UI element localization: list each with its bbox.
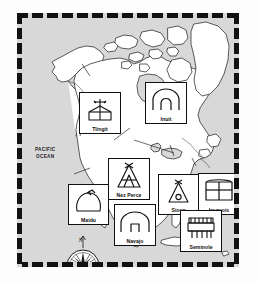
tribe-box-iroquois[interactable]: Iroquois [198,173,234,215]
chickee-icon [181,211,221,244]
compass-north-letter: N [78,237,84,243]
tribe-label-nez-perce: Nez Perce [117,192,142,198]
pacific-ocean-label: PACIFIC OCEAN [35,146,55,160]
tribe-box-tlingit[interactable]: Tlingit [79,92,121,134]
earth-lodge-icon [69,185,108,217]
tribe-box-inuit[interactable]: Inuit [145,82,187,124]
tribe-label-navajo: Navajo [126,238,143,244]
compass-rose: N [58,234,108,262]
tribe-box-maidu[interactable]: Maidu [68,184,109,225]
frame-edge-right [234,13,239,267]
tipi-poles-icon [109,159,149,192]
tribe-label-tlingit: Tlingit [92,126,108,132]
tribe-box-sioux[interactable]: Sioux [158,174,199,215]
map-frame: PACIFIC OCEAN ATLANTIC OCEAN [17,13,239,267]
tribe-label-inuit: Inuit [161,116,172,122]
map-canvas: PACIFIC OCEAN ATLANTIC OCEAN [22,18,234,262]
igloo-icon [146,83,186,116]
tribe-box-seminole[interactable]: Seminole [180,210,222,252]
tribe-label-seminole: Seminole [189,244,212,250]
hogan-icon [115,205,155,238]
tribe-label-maidu: Maidu [81,217,96,223]
pacific-ocean-line2: OCEAN [35,153,55,160]
plank-house-icon [80,93,120,126]
tribe-box-nez-perce[interactable]: Nez Perce [108,158,150,200]
tribe-box-navajo[interactable]: Navajo [114,204,156,246]
map-illustration: PACIFIC OCEAN ATLANTIC OCEAN [0,0,259,283]
frame-edge-bottom [17,262,239,267]
pacific-ocean-line1: PACIFIC [35,146,55,153]
longhouse-icon [199,174,234,207]
tipi-icon [159,175,198,207]
